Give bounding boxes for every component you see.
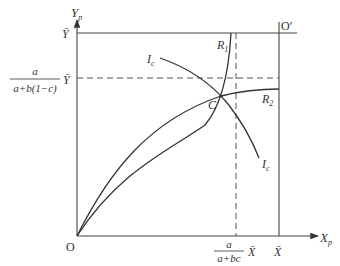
intersection-c-label: C <box>208 98 217 112</box>
edgeworth-box-diagram: Yp Xp O O′ Ȳ a a+b(1−c) Ȳ a a+bc X̄ X̄… <box>0 0 340 266</box>
x-right-tick-label: X̄ <box>273 245 282 259</box>
y-axis-label: Yp <box>71 5 82 22</box>
r1-label: R1 <box>216 38 228 54</box>
y-mid-frac-denominator: a+b(1−c) <box>13 82 57 95</box>
y-mid-tick-label: Ȳ <box>63 73 71 87</box>
x-mid-tick-label: X̄ <box>247 245 256 259</box>
r2-curve <box>77 89 279 236</box>
intersection-point-c <box>220 95 223 98</box>
y-top-tick-label: Ȳ <box>62 27 70 41</box>
x-mid-frac-denominator: a+bc <box>217 252 240 264</box>
y-mid-frac-numerator: a <box>32 65 38 77</box>
origin-prime-label: O′ <box>281 19 293 33</box>
r2-label: R2 <box>261 92 273 108</box>
x-axis-label: Xp <box>319 230 332 247</box>
x-mid-frac-numerator: a <box>226 238 232 250</box>
ic-top-label: Ic <box>146 52 155 68</box>
origin-label: O <box>66 240 75 254</box>
ic-bottom-label: Ic <box>261 157 270 173</box>
